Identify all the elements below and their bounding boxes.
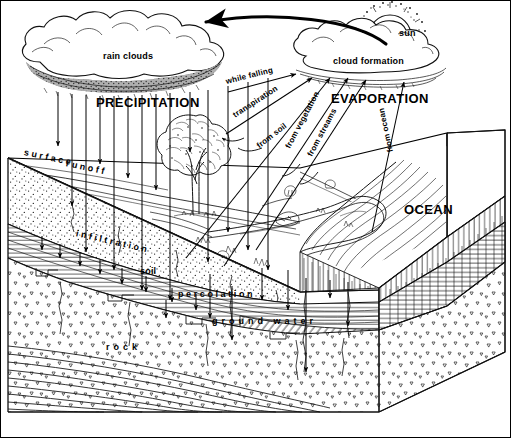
label-soil: soil [140, 267, 156, 276]
label-rain-clouds: rain clouds [103, 52, 153, 61]
label-evaporation: EVAPORATION [331, 92, 429, 105]
label-percolation: percolation [178, 290, 255, 299]
hydrologic-cycle-diagram: rain clouds PRECIPITATION while falling … [0, 0, 511, 438]
label-ground-water: ground water [212, 317, 317, 326]
label-ocean: OCEAN [404, 203, 453, 216]
label-precipitation: PRECIPITATION [96, 96, 200, 109]
label-cloud-formation: cloud formation [333, 57, 404, 66]
label-rock: rock [106, 343, 141, 352]
diagram-canvas [0, 0, 511, 438]
label-sun: sun [399, 29, 416, 38]
